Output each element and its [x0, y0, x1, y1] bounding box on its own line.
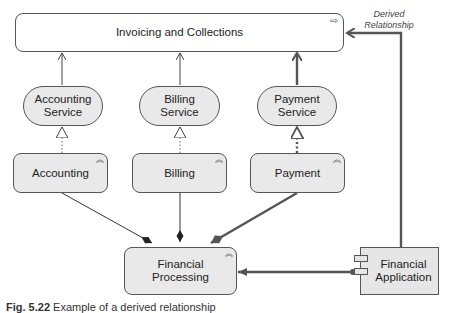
composition-line-payment — [211, 193, 297, 243]
function-chevron-icon: ︽ — [225, 250, 233, 258]
derived-relationship-label: Derived Relationship — [343, 9, 435, 31]
function-chevron-icon: ︽ — [215, 156, 223, 164]
process-arrow-icon: ⇨ — [330, 17, 338, 25]
component-icon — [354, 268, 368, 275]
billing-service-node[interactable]: Billing Service — [139, 86, 220, 126]
payment-service-node[interactable]: Payment Service — [257, 86, 337, 126]
figure-caption: Fig. 5.22 Example of a derived relations… — [6, 301, 216, 313]
payment-function-node[interactable]: Payment ︽ — [250, 153, 345, 193]
function-chevron-icon: ︽ — [333, 156, 341, 164]
invoicing-and-collections-label: Invoicing and Collections — [116, 26, 243, 39]
accounting-service-node[interactable]: Accounting Service — [23, 86, 103, 126]
composition-line-accounting — [62, 193, 152, 243]
component-icon — [354, 255, 368, 262]
derived-relationship-line — [347, 33, 401, 247]
invoicing-and-collections-node[interactable]: Invoicing and Collections ⇨ — [15, 13, 344, 52]
financial-application-node[interactable]: Financial Application — [360, 247, 439, 295]
function-chevron-icon: ︽ — [96, 156, 104, 164]
financial-processing-node[interactable]: Financial Processing ︽ — [124, 247, 237, 295]
accounting-function-node[interactable]: Accounting ︽ — [13, 153, 108, 193]
billing-function-node[interactable]: Billing ︽ — [132, 153, 227, 193]
